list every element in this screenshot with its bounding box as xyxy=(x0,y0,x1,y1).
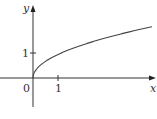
origin-label: 0 xyxy=(23,82,30,95)
x-axis-arrow-icon xyxy=(149,76,156,81)
x-tick-label-1: 1 xyxy=(55,82,62,95)
x-axis-label: x xyxy=(150,82,157,95)
y-tick-label-1: 1 xyxy=(22,47,29,60)
y-axis-label: y xyxy=(22,2,30,15)
y-axis-arrow-icon xyxy=(31,5,36,12)
sqrt-curve xyxy=(33,27,152,78)
chart: 0 1 1 x y xyxy=(0,0,157,119)
